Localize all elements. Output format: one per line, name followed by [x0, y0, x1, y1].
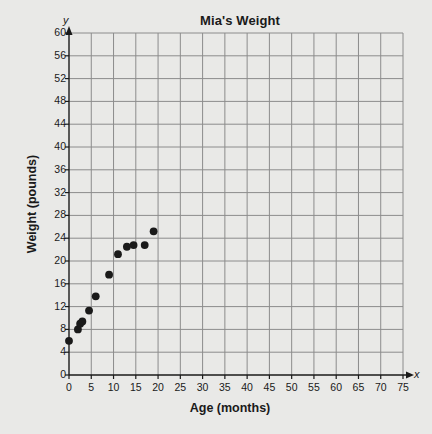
data-point — [150, 227, 158, 235]
tick-marks — [65, 33, 403, 379]
grid-lines — [69, 33, 403, 375]
data-point — [130, 241, 138, 249]
plot-canvas — [0, 0, 432, 434]
data-point — [85, 307, 93, 315]
data-point — [123, 243, 131, 251]
data-point — [114, 250, 122, 258]
data-point — [92, 292, 100, 300]
data-point — [141, 241, 149, 249]
data-point — [65, 337, 73, 345]
scatter-plot-figure: Mia's Weight Weight (pounds) Age (months… — [0, 0, 432, 434]
data-points — [65, 227, 157, 344]
data-point — [78, 318, 86, 326]
data-point — [105, 271, 113, 279]
